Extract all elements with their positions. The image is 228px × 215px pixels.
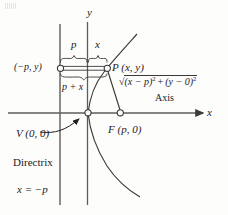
brace-x (89, 56, 108, 63)
focus-label: F (p, 0) (108, 124, 141, 135)
brace-p-label: p (71, 39, 77, 50)
brace-p-plus-x-label: p + x (62, 82, 83, 92)
directrix-equation-label: x = −p (17, 184, 48, 195)
brace-x-label: x (95, 39, 100, 50)
radicand-plus: + (156, 76, 166, 87)
x-axis-label: x (207, 107, 212, 118)
radicand-group: (x − p)2+(y − 0)2 (124, 75, 198, 87)
vertex-label: V (0, 0) (16, 128, 49, 139)
radicand-term-2-exponent: 2 (193, 75, 196, 82)
distance-expression: √(x − p)2+(y − 0)2 (119, 76, 197, 87)
radicand-term-1: (x − p) (125, 76, 153, 87)
point-p-marker (104, 65, 110, 71)
y-axis-label: y (87, 7, 92, 18)
brace-p (61, 56, 88, 63)
point-focus-marker (117, 110, 123, 116)
directrix-point-label: (−p, y) (14, 62, 42, 72)
radicand-term-2: (y − 0) (165, 76, 193, 87)
brace-p-plus-x (61, 74, 108, 81)
point-directrix-marker (57, 65, 63, 71)
axis-annotation-label: Axis (155, 93, 174, 103)
point-vertex-marker (85, 110, 91, 116)
figure-canvas: y x Axis (−p, y) p x p + x P (x, y) √(x … (0, 0, 228, 215)
point-p-label: P (x, y) (112, 62, 144, 73)
directrix-word-label: Directrix (13, 157, 53, 168)
